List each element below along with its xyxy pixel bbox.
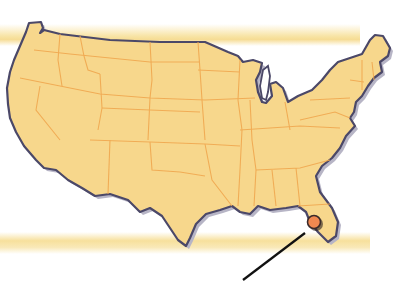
leader-line [243, 233, 305, 280]
us-map [0, 0, 416, 283]
